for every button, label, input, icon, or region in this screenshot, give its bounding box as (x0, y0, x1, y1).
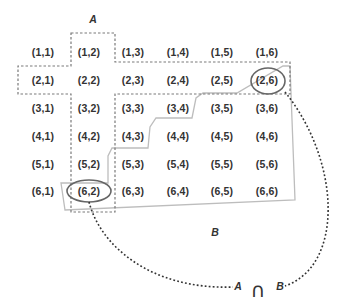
grid-cell: (3,2) (78, 102, 101, 114)
grid-cell: (2,1) (32, 74, 55, 86)
grid-cell: (6,3) (122, 185, 145, 197)
grid-cell: (1,5) (211, 46, 234, 58)
grid-cell: (6,4) (167, 185, 190, 197)
grid-cell: (1,6) (256, 46, 279, 58)
set-b-label: B (211, 226, 219, 238)
grid-cell: (5,3) (122, 158, 145, 170)
grid-cell: (2,5) (211, 74, 234, 86)
grid-cell: (4,6) (256, 130, 279, 142)
grid-cell: (4,4) (167, 130, 190, 142)
grid-cell: (5,5) (211, 158, 234, 170)
grid-cell: (3,6) (256, 102, 279, 114)
set-a-region (18, 33, 290, 212)
grid-cell: (5,1) (32, 158, 55, 170)
connector-6-2 (89, 202, 233, 287)
grid-cell: (3,1) (32, 102, 55, 114)
grid-cell: (6,6) (256, 185, 279, 197)
grid-cell: (4,1) (32, 130, 55, 142)
grid-cell: (6,1) (32, 185, 55, 197)
intersection-left-label: A (234, 280, 242, 292)
grid-cell: (3,5) (211, 102, 234, 114)
grid-cell-highlighted: (2,6) (256, 74, 279, 86)
grid-cell: (4,3) (122, 130, 145, 142)
set-a-label: A (89, 13, 97, 25)
grid-cell: (3,4) (167, 102, 190, 114)
grid-cell: (1,1) (32, 46, 55, 58)
grid-cell-highlighted: (6,2) (78, 185, 101, 197)
grid-cell: (4,5) (211, 130, 234, 142)
grid-cell: (5,2) (78, 158, 101, 170)
grid-cell: (4,2) (78, 130, 101, 142)
grid-cell: (3,3) (122, 102, 145, 114)
intersection-symbol: ∩ (251, 278, 266, 302)
grid-cell: (6,5) (211, 185, 234, 197)
intersection-right-label: B (276, 280, 284, 292)
grid-cell: (2,3) (122, 74, 145, 86)
grid-cell: (5,6) (256, 158, 279, 170)
grid-cell: (2,2) (78, 74, 101, 86)
grid-cell: (1,4) (167, 46, 190, 58)
grid-cell: (5,4) (167, 158, 190, 170)
grid-cell: (2,4) (167, 74, 190, 86)
grid-cell: (1,2) (78, 46, 101, 58)
sample-space-diagram: A (1,1) (1,2) (1,3) (1,4) (1,5) (1,6) (2… (0, 0, 351, 306)
grid-cell: (1,3) (122, 46, 145, 58)
